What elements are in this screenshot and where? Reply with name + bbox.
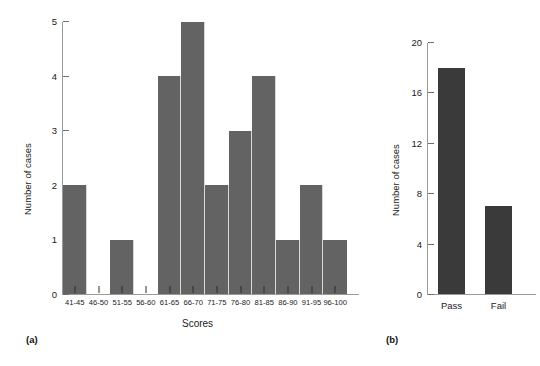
panel-a-xtick-label-4: 61-65: [160, 299, 179, 307]
panel-a-xtick-label-7: 76-80: [231, 299, 250, 307]
panel-a-xtick-label-10: 91-95: [302, 299, 321, 307]
bar: [252, 76, 276, 294]
bar: [181, 22, 205, 294]
figure-histogram-and-bar-chart: Number of cases Scores 0 1 2 3: [0, 0, 540, 366]
panel-a-x-axis-title: Scores: [182, 318, 213, 329]
panel-b-ytick-label-5: 20: [411, 38, 422, 48]
panel-a: Number of cases Scores 0 1 2 3: [0, 0, 368, 366]
bar: [205, 185, 229, 294]
panel-a-xtick-3: [145, 286, 146, 293]
bar: [300, 185, 324, 294]
panel-a-ytick-label-1: 1: [52, 236, 57, 246]
panel-a-xtick-label-5: 66-70: [183, 299, 202, 307]
panel-a-xtick-10: [311, 286, 312, 293]
panel-b-plot-area: 0 4 8 12 16 20: [427, 43, 522, 295]
panel-a-xtick-label-6: 71-75: [207, 299, 226, 307]
bar: [229, 131, 253, 294]
bar-slot: Pass: [428, 43, 475, 294]
panel-a-xtick-label-9: 86-90: [278, 299, 297, 307]
panel-b-ytick-label-1: 4: [417, 240, 422, 250]
bar-slot: 91-95: [300, 22, 324, 294]
bar-slot: 51-55: [110, 22, 134, 294]
panel-b-ytick-label-4: 16: [411, 89, 422, 99]
panel-a-xtick-4: [169, 286, 170, 293]
bar-slot: 81-85: [252, 22, 276, 294]
bar-slot: 86-90: [276, 22, 300, 294]
panel-a-xtick-7: [240, 286, 241, 293]
panel-b-ytick-label-2: 8: [417, 189, 422, 199]
panel-a-xtick-label-1: 46-50: [89, 299, 108, 307]
panel-a-xtick-label-11: 96-100: [323, 299, 347, 307]
panel-a-y-axis-title: Number of cases: [22, 143, 33, 215]
panel-a-xtick-2: [122, 286, 123, 293]
panel-a-caption: (a): [26, 334, 38, 345]
bar-slot: 41-45: [63, 22, 87, 294]
panel-b-caption: (b): [386, 334, 398, 345]
bar-slot: 76-80: [229, 22, 253, 294]
panel-b-xtick-label-1: Fail: [491, 301, 506, 311]
panel-a-plot-area: 0 1 2 3 4 5: [62, 22, 347, 295]
panel-b-ytick-label-0: 0: [417, 290, 422, 300]
bar: [438, 68, 465, 294]
panel-b-bars: Pass Fail: [428, 43, 522, 294]
bar: [485, 206, 512, 294]
bar-slot: 71-75: [205, 22, 229, 294]
panel-b-x-axis-line: [427, 294, 536, 295]
panel-a-xtick-0: [74, 286, 75, 293]
bar-slot: 56-60: [134, 22, 158, 294]
panel-b-y-axis-title: Number of cases: [390, 144, 401, 216]
panel-a-ytick-label-5: 5: [52, 17, 57, 27]
bar: [63, 185, 87, 294]
panel-b-xtick-label-0: Pass: [441, 301, 462, 311]
panel-a-xtick-11: [335, 286, 336, 293]
panel-a-ytick-label-3: 3: [52, 126, 57, 136]
panel-a-xtick-label-0: 41-45: [65, 299, 84, 307]
panel-a-x-axis-line: [62, 294, 359, 295]
panel-a-xtick-label-3: 56-60: [136, 299, 155, 307]
bar-slot: 66-70: [181, 22, 205, 294]
panel-b-ytick-label-3: 12: [411, 139, 422, 149]
panel-a-xtick-9: [287, 286, 288, 293]
bar: [158, 76, 182, 294]
panel-a-xtick-6: [216, 286, 217, 293]
panel-a-ytick-label-0: 0: [52, 290, 57, 300]
bar-slot: 96-100: [323, 22, 347, 294]
panel-b: Number of cases 0 4 8 12 16: [368, 0, 540, 366]
bar-slot: 46-50: [87, 22, 111, 294]
panel-a-xtick-5: [193, 286, 194, 293]
panel-a-xtick-label-2: 51-55: [112, 299, 131, 307]
bar-slot: 61-65: [158, 22, 182, 294]
bar-slot: Fail: [475, 43, 522, 294]
panel-a-xtick-label-8: 81-85: [254, 299, 273, 307]
panel-a-xtick-8: [264, 286, 265, 293]
panel-a-ytick-label-2: 2: [52, 181, 57, 191]
panel-a-xtick-1: [98, 286, 99, 293]
panel-a-ytick-label-4: 4: [52, 72, 57, 82]
panel-a-bars: 41-45 46-50 51-55 56-60: [63, 22, 347, 294]
